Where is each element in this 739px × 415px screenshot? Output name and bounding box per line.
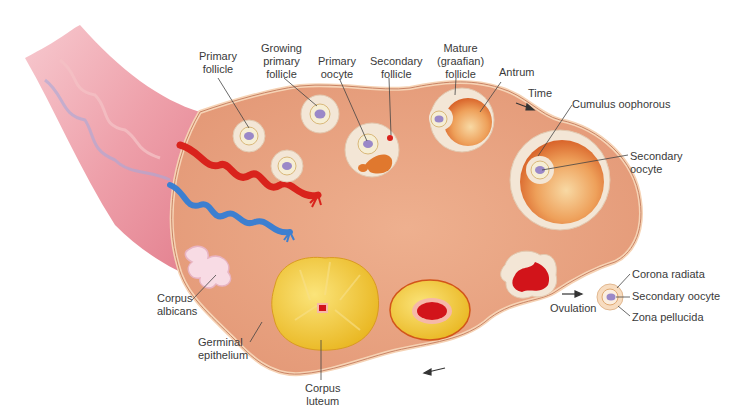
label-mature-follicle: Mature (graafian) follicle (437, 42, 484, 81)
label-time: Time (528, 87, 552, 100)
label-growing-primary-follicle: Growing primary follicle (261, 42, 302, 81)
primary-follicle (271, 150, 303, 182)
label-zona-pellucida: Zona pellucida (632, 311, 704, 324)
label-secondary-follicle: Secondary follicle (370, 55, 423, 81)
label-antrum: Antrum (499, 66, 534, 79)
label-primary-oocyte: Primary oocyte (318, 55, 356, 81)
label-cumulus-oophorous: Cumulus oophorous (572, 98, 670, 111)
label-corpus-luteum: Corpus luteum (305, 382, 340, 408)
growing-primary-follicle (301, 95, 339, 133)
corpus-luteum-developing (390, 280, 470, 340)
label-corona-radiata: Corona radiata (632, 268, 705, 281)
graafian-follicle (510, 130, 610, 230)
mature-follicle (429, 88, 494, 152)
label-ovulation: Ovulation (550, 302, 596, 315)
label-secondary-oocyte: Secondary oocyte (630, 150, 683, 176)
label-germinal-epithelium: Germinal epithelium (198, 336, 248, 362)
label-primary-follicle: Primary follicle (199, 50, 237, 76)
label-corpus-albicans: Corpus albicans (157, 292, 197, 318)
corpus-luteum-mature (272, 257, 379, 350)
label-secondary-oocyte-released: Secondary oocyte (632, 290, 720, 303)
ruptured-follicle (501, 251, 557, 298)
primary-follicle (233, 120, 265, 152)
ovary-diagram: Primary follicle Growing primary follicl… (0, 0, 739, 415)
